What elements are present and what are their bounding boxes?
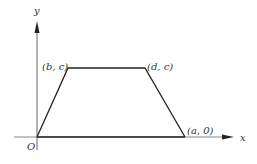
origin-label: O xyxy=(27,141,35,152)
y-axis: y xyxy=(33,5,40,150)
trapezoid-diagram: y x O (b, c) (d, c) (a, 0) xyxy=(0,0,257,164)
y-axis-arrow-icon xyxy=(35,21,40,33)
trapezoid-curve xyxy=(37,68,185,137)
point-label-a0: (a, 0) xyxy=(187,125,214,136)
point-label-dc: (d, c) xyxy=(147,61,173,72)
y-axis-label: y xyxy=(33,5,40,16)
x-axis-arrow-icon xyxy=(222,135,234,140)
point-label-bc: (b, c) xyxy=(42,61,68,72)
x-axis-label: x xyxy=(240,132,246,143)
